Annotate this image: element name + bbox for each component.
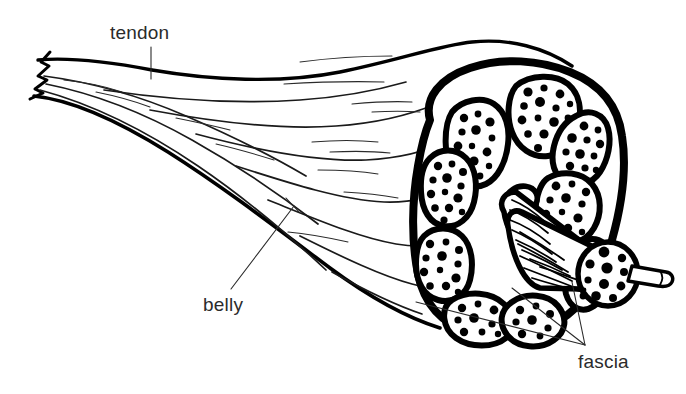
label-fascia: fascia (578, 351, 629, 372)
label-belly: belly (203, 294, 243, 315)
fascicle-left-middle (421, 151, 476, 227)
label-tendon: tendon (110, 22, 169, 43)
diagram-canvas: tendon belly fascia (0, 0, 686, 394)
muscle-anatomy-diagram: tendon belly fascia (0, 0, 686, 394)
